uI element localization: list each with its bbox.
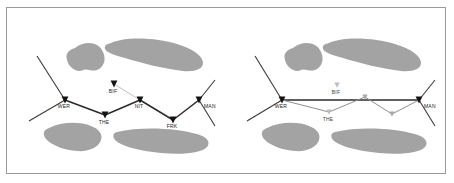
node-label-WER: WER: [58, 103, 70, 109]
figure-frame: WERTHENITFRKMANBIF WERTHEBIFMAN: [6, 7, 446, 174]
branch-link: [282, 100, 329, 112]
spur-line: [255, 56, 282, 100]
node-label-MAN: MAN: [424, 103, 436, 109]
node-label-NIT: NIT: [135, 103, 144, 109]
spur-line: [37, 56, 65, 100]
region-blob: [331, 128, 426, 153]
right-panel-regions: [262, 39, 427, 154]
diagram-svg: WERTHENITFRKMANBIF WERTHEBIFMAN: [7, 8, 447, 175]
main-path-link: [173, 100, 199, 120]
region-blob: [284, 43, 322, 71]
node-label-BIF: BIF: [109, 88, 117, 94]
node-marker-BIF: [111, 81, 118, 88]
region-blob: [262, 123, 320, 151]
node-marker-point: [389, 111, 394, 116]
node-label-FRK: FRK: [167, 123, 178, 129]
branch-link: [392, 100, 419, 114]
region-blob: [105, 39, 203, 72]
node-label-BIF: BIF: [332, 89, 340, 95]
main-path-link: [65, 100, 105, 115]
region-blob: [44, 123, 102, 151]
main-path-link: [140, 100, 173, 120]
region-blob: [66, 43, 104, 71]
branch-link: [114, 84, 140, 100]
node-label-THE: THE: [323, 116, 334, 122]
node-label-THE: THE: [99, 119, 110, 125]
region-blob: [113, 128, 208, 153]
cut-off-text-strip: · · · · · · · · · · · ·: [0, 0, 454, 6]
right-panel-nodes: WERTHEBIFMAN: [275, 82, 436, 122]
node-label-WER: WER: [275, 103, 287, 109]
node-marker-THE: [326, 109, 331, 114]
left-panel-regions: [44, 39, 209, 154]
node-label-MAN: MAN: [204, 103, 216, 109]
node-marker-BIF: [334, 82, 339, 87]
diagram-stage: WERTHENITFRKMANBIF WERTHEBIFMAN: [7, 8, 447, 175]
node-marker-THE: [102, 112, 109, 119]
node-marker-point: [362, 94, 367, 99]
region-blob: [323, 39, 421, 72]
